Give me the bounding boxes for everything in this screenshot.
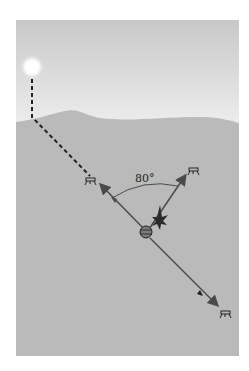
bee-dance-diagram	[0, 0, 249, 371]
hive-icon	[140, 226, 152, 238]
angle-label: 80°	[135, 172, 155, 185]
ground	[16, 110, 239, 356]
sky	[16, 20, 239, 130]
